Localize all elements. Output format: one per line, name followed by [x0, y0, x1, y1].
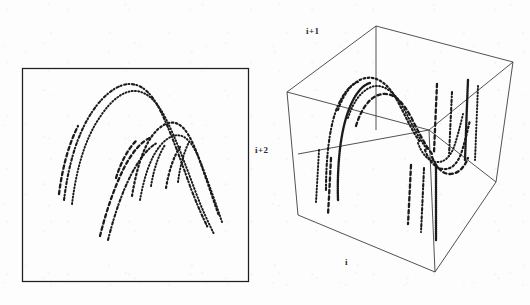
- box-edge-bottom-left: [298, 215, 435, 272]
- box-edge-back-horizontal: [298, 130, 429, 154]
- curve3d-drop-2: [421, 168, 424, 232]
- curve-strand-b: [151, 145, 165, 186]
- curve-arc-3-right-high: [132, 123, 219, 216]
- box-top-face: [287, 26, 513, 130]
- axis-label-i-plus-2: i+2: [255, 146, 268, 155]
- box-edge-vertical-right: [496, 62, 513, 182]
- axis-label-i: i: [345, 258, 348, 267]
- box-edge-bottom-right: [435, 182, 496, 272]
- axis-label-i-plus-1: i+1: [306, 27, 319, 36]
- figure-page: .ink { fill: none; stroke: #1b1b1b; stro…: [0, 0, 530, 305]
- box-wireframe: [287, 26, 513, 272]
- right-panel-curves: [316, 78, 478, 240]
- curve-arc-2-inner-left: [72, 91, 214, 234]
- curve3d-drop-1: [408, 165, 411, 224]
- box-edge-mid-horizontal: [429, 130, 496, 182]
- curve3d-crown-3: [356, 94, 432, 154]
- curve3d-strand-r1: [434, 84, 437, 152]
- curve-arc-1-outer-left: [64, 84, 208, 228]
- left-panel: [23, 69, 249, 282]
- right-panel: [287, 26, 513, 272]
- curve3d-drop-4: [316, 150, 319, 202]
- curve3d-strand-r4: [475, 86, 478, 160]
- box-edge-vertical-left: [287, 92, 298, 215]
- left-panel-curves: [59, 84, 222, 240]
- curve3d-strand-r3: [465, 80, 468, 160]
- curve3d-valley-3: [432, 157, 468, 174]
- curve3d-crown-1: [338, 78, 420, 142]
- curve3d-drop-5: [328, 158, 331, 214]
